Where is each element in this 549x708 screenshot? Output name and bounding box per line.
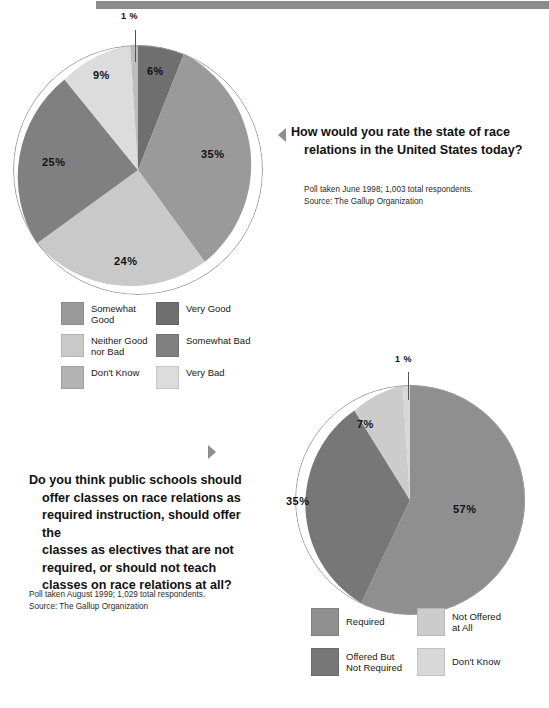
pie-graphic-1 <box>13 45 263 295</box>
legend-chart-2: Required Not Offered at All Offered But … <box>311 608 541 685</box>
legend-item-required[interactable]: Required <box>311 608 417 636</box>
pie-chart-race-relations-rating: 1 % 6% 35% 24% 25% 9% <box>13 45 263 295</box>
question-2-line-1: Do you think public schools should <box>29 472 244 490</box>
source-note-1: Poll taken June 1998; 1,003 total respon… <box>304 184 544 207</box>
legend-label-not-offered-at-all: Not Offered at All <box>452 608 501 633</box>
leader-line-1pct-2 <box>408 372 409 400</box>
legend-item-somewhat-bad[interactable]: Somewhat Bad <box>156 334 250 357</box>
legend-label-offered-but-not-required: Offered But Not Required <box>346 648 402 673</box>
legend-row: Offered But Not Required Don't Know <box>311 648 541 676</box>
legend-label-neither-good-nor-bad: Neither Good nor Bad <box>91 334 148 357</box>
legend-swatch-not-offered-at-all <box>417 608 445 636</box>
pie2-label-1pct: 1 % <box>395 354 412 364</box>
legend-swatch-dont-know <box>61 366 84 389</box>
legend-label-somewhat-bad: Somewhat Bad <box>186 334 250 346</box>
question-1-line-2: relations in the United States today? <box>291 142 541 160</box>
pie-graphic-2 <box>295 385 525 615</box>
legend-item-neither-good-nor-bad[interactable]: Neither Good nor Bad <box>61 334 156 357</box>
legend-label-required: Required <box>346 608 385 627</box>
legend-row: Required Not Offered at All <box>311 608 541 636</box>
legend-row: Somewhat Good Very Good <box>61 302 271 325</box>
legend-item-very-bad[interactable]: Very Bad <box>156 366 225 389</box>
legend-item-very-good[interactable]: Very Good <box>156 302 231 325</box>
pie1-label-6pct: 6% <box>147 65 164 77</box>
question-2-line-2: offer classes on race relations as <box>29 490 244 508</box>
legend-row: Don't Know Very Bad <box>61 366 271 389</box>
legend-row: Neither Good nor Bad Somewhat Bad <box>61 334 271 357</box>
pie1-label-9pct: 9% <box>93 69 110 81</box>
legend-swatch-very-bad <box>156 366 179 389</box>
legend-chart-1: Somewhat Good Very Good Neither Good nor… <box>61 302 271 398</box>
header-rule <box>96 1 549 9</box>
pie2-label-7pct: 7% <box>357 418 374 430</box>
legend-swatch-somewhat-bad <box>156 334 179 357</box>
legend-swatch-required <box>311 608 339 636</box>
pie1-label-1pct: 1 % <box>121 11 138 21</box>
pie2-label-57pct: 57% <box>453 503 477 515</box>
legend-swatch-dont-know-2 <box>417 648 445 676</box>
legend-label-very-good: Very Good <box>186 302 231 314</box>
legend-label-very-bad: Very Bad <box>186 366 225 378</box>
legend-item-dont-know[interactable]: Don't Know <box>61 366 156 389</box>
pointer-triangle-right-icon <box>208 445 216 459</box>
question-1: How would you rate the state of race rel… <box>291 124 541 159</box>
legend-label-dont-know: Don't Know <box>91 366 139 378</box>
question-1-line-1: How would you rate the state of race <box>291 124 541 142</box>
legend-swatch-neither-good-nor-bad <box>61 334 84 357</box>
pie-chart-race-relations-classes: 1 % 57% 35% 7% <box>295 385 525 615</box>
legend-label-somewhat-good: Somewhat Good <box>91 302 136 325</box>
legend-item-not-offered-at-all[interactable]: Not Offered at All <box>417 608 501 636</box>
legend-item-dont-know-2[interactable]: Don't Know <box>417 648 500 676</box>
leader-line-1pct <box>135 30 136 62</box>
legend-swatch-somewhat-good <box>61 302 84 325</box>
question-2-line-5: required, or should not teach <box>29 560 244 578</box>
question-2: Do you think public schools should offer… <box>29 472 244 595</box>
pie2-label-35pct: 35% <box>286 495 310 507</box>
pie1-label-25pct: 25% <box>42 156 66 168</box>
pie1-label-24pct: 24% <box>114 255 138 267</box>
legend-swatch-offered-but-not-required <box>311 648 339 676</box>
question-2-line-3: required instruction, should offer the <box>29 507 244 542</box>
question-2-line-4: classes as electives that are not <box>29 542 244 560</box>
pie1-label-35pct: 35% <box>201 148 225 160</box>
legend-item-offered-but-not-required[interactable]: Offered But Not Required <box>311 648 417 676</box>
legend-label-dont-know-2: Don't Know <box>452 648 500 667</box>
legend-swatch-very-good <box>156 302 179 325</box>
source-note-2: Poll taken August 1999; 1,029 total resp… <box>29 589 269 612</box>
pointer-triangle-left-icon <box>278 128 286 142</box>
legend-item-somewhat-good[interactable]: Somewhat Good <box>61 302 156 325</box>
